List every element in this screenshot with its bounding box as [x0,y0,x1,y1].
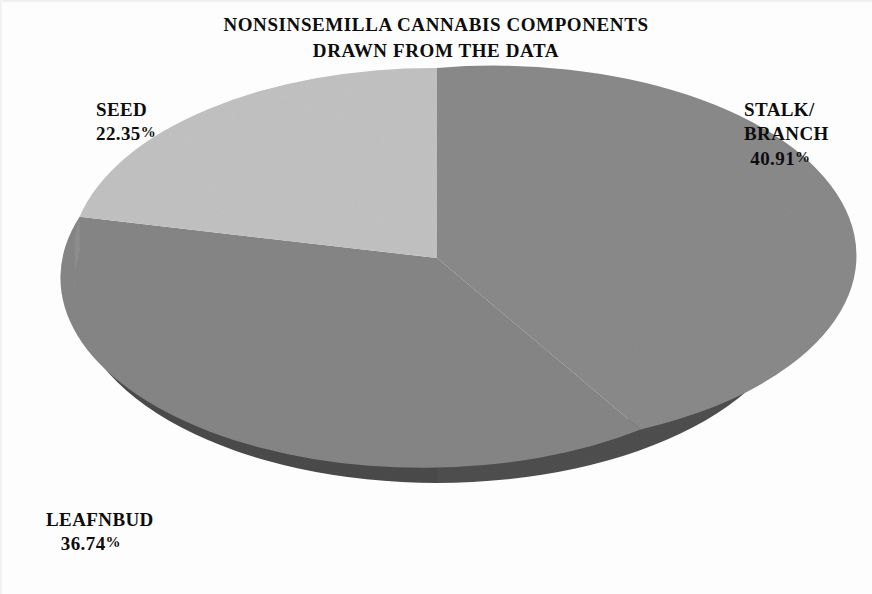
pie-chart [0,0,872,594]
pie-label-stalk-branch-value: 40.91% [744,147,829,171]
pie-chart-svg [0,0,872,594]
pie-label-seed-value: 22.35% [96,122,156,146]
pie-label-leafnbud-name: LEAFNBUD [46,508,154,532]
pie-label-stalk-branch: STALK/ BRANCH 40.91% [744,98,829,171]
pie-label-stalk-branch-name-1: STALK/ [744,98,829,122]
pie-label-leafnbud-value: 36.74% [46,532,154,556]
pie-label-stalk-branch-name-2: BRANCH [744,122,829,146]
pie-label-leafnbud: LEAFNBUD 36.74% [46,508,154,557]
pie-label-seed: SEED 22.35% [96,98,156,147]
pie-label-seed-name: SEED [96,98,156,122]
